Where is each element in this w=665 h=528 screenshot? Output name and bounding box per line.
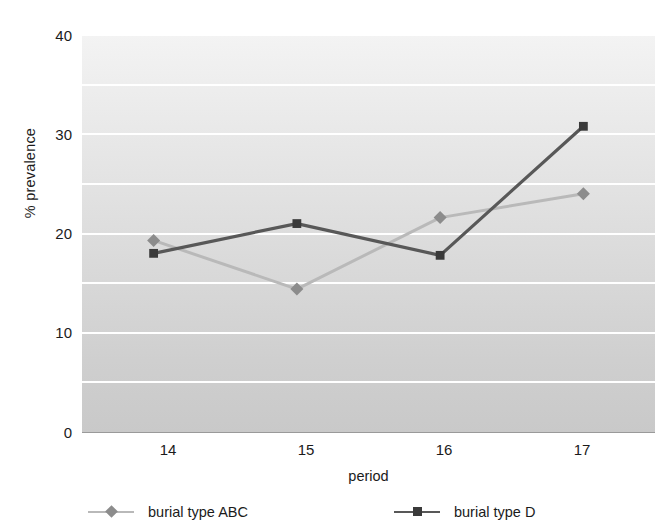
x-tick-14: 14: [138, 441, 198, 458]
x-tick-15: 15: [276, 441, 336, 458]
data-series-layer: [82, 35, 655, 432]
data-point-burial-type-d-17: [579, 122, 588, 131]
data-point-burial-type-abc-17: [577, 187, 590, 200]
legend-key-square-icon: [394, 505, 440, 519]
legend-item-burial-type-d: burial type D: [394, 504, 535, 520]
data-point-burial-type-d-16: [436, 251, 445, 260]
data-point-burial-type-d-14: [149, 249, 158, 258]
legend-label-burial-type-d: burial type D: [454, 504, 535, 520]
line-chart-figure: % prevalence 0 10 20 30 40 14 15 16 17 p…: [0, 0, 665, 528]
plot-area: [82, 35, 655, 432]
data-point-burial-type-abc-15: [290, 283, 303, 296]
legend-item-burial-type-abc: burial type ABC: [88, 504, 248, 520]
data-point-burial-type-abc-14: [147, 234, 160, 247]
x-axis-label: period: [82, 468, 655, 484]
x-tick-17: 17: [552, 441, 612, 458]
data-point-burial-type-abc-16: [434, 211, 447, 224]
y-tick-30: 30: [38, 127, 72, 142]
y-tick-40: 40: [38, 28, 72, 43]
x-axis-line: [82, 432, 655, 433]
y-tick-0: 0: [38, 425, 72, 440]
legend-key-diamond-icon: [88, 505, 134, 519]
x-tick-16: 16: [414, 441, 474, 458]
y-tick-10: 10: [38, 325, 72, 340]
series-line-burial-type-d: [154, 126, 584, 255]
data-point-burial-type-d-15: [292, 219, 301, 228]
legend-label-burial-type-abc: burial type ABC: [148, 504, 248, 520]
y-axis-tick-labels: 0 10 20 30 40: [34, 0, 72, 528]
y-tick-20: 20: [38, 226, 72, 241]
chart-legend: burial type ABC burial type D: [82, 500, 655, 524]
